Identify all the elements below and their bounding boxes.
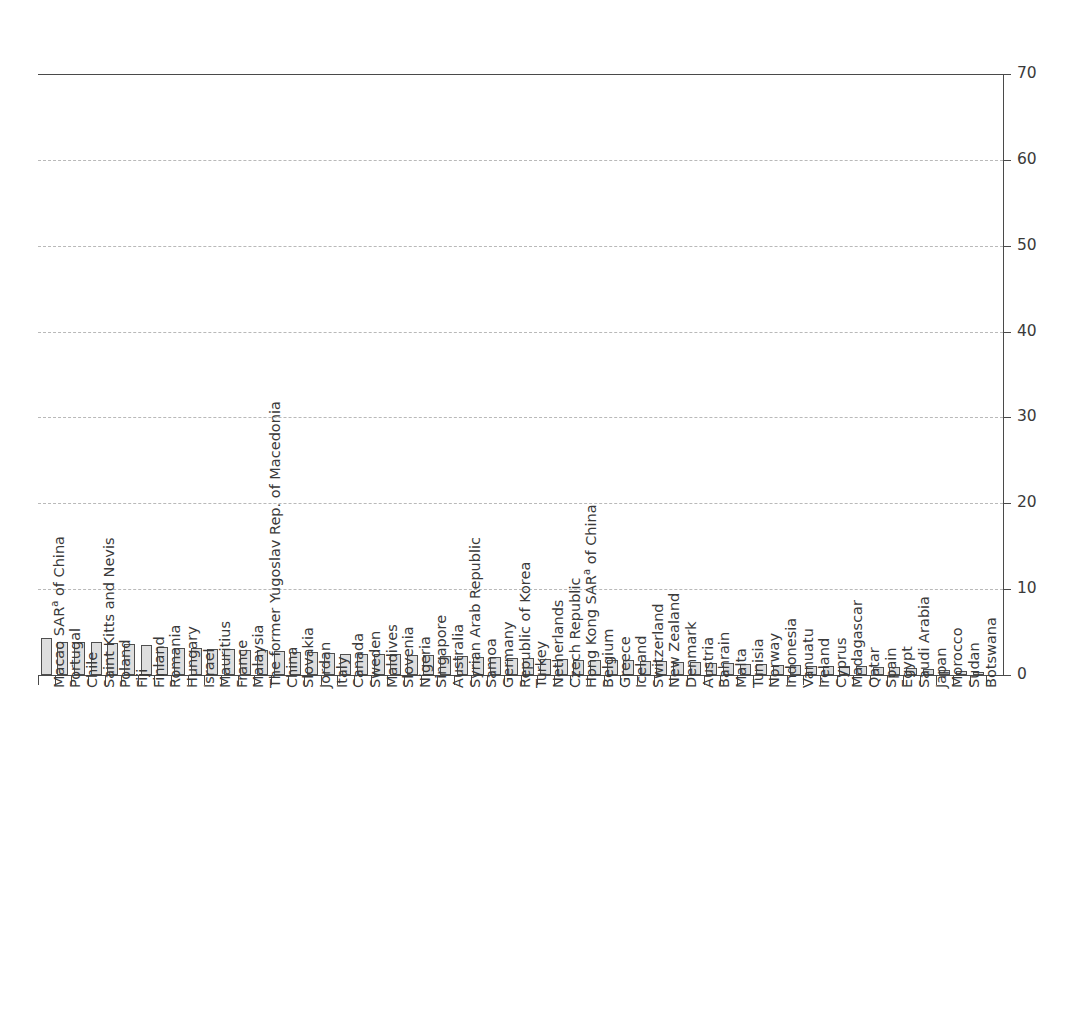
x-axis-label: Finland (152, 636, 167, 688)
x-axis-label: Saint Kitts and Nevis (102, 538, 117, 689)
x-axis-label: Cyprus (834, 637, 849, 688)
x-axis-label: Madagascar (850, 600, 865, 688)
y-tick-label-10: 10 (1017, 581, 1037, 597)
x-axis-label: Denmark (684, 621, 699, 688)
y-tick-30 (1003, 417, 1011, 418)
y-tick-label-20: 20 (1017, 496, 1037, 512)
y-tick-label-50: 50 (1017, 238, 1037, 254)
x-axis-label: Poland (118, 640, 133, 688)
x-axis-label: Switzerland (651, 603, 666, 688)
x-axis-label: Fiji (135, 669, 150, 688)
y-tick-label-70: 70 (1017, 66, 1037, 82)
x-axis-label: France (235, 640, 250, 688)
x-axis-label: Nigeria (418, 636, 433, 688)
x-axis-label: Jordan (318, 642, 333, 688)
x-axis-label: Botswana (984, 617, 999, 688)
x-axis-label: China (285, 647, 300, 688)
x-axis-label: Belgium (601, 629, 616, 688)
x-axis-label: Slovenia (401, 626, 416, 688)
x-axis-label: Austria (701, 637, 716, 688)
x-axis-label: Italy (335, 657, 350, 688)
y-tick-60 (1003, 160, 1011, 161)
x-axis-label: Spain (884, 647, 899, 688)
y-tick-label-60: 60 (1017, 152, 1037, 168)
x-axis-label: Mauritius (218, 621, 233, 688)
x-tick (38, 676, 39, 685)
y-tick-50 (1003, 246, 1011, 247)
y-tick-70 (1003, 74, 1011, 75)
x-axis-label: Greece (618, 636, 633, 688)
y-tick-20 (1003, 503, 1011, 504)
footnote-marker: a (49, 601, 60, 607)
x-axis-label: Vanuatu (801, 628, 816, 688)
x-axis-label: New Zealand (667, 593, 682, 688)
x-axis-label: Romania (168, 625, 183, 688)
x-axis-label: Turkey (534, 641, 549, 688)
x-axis-label: Egypt (900, 646, 915, 688)
x-axis-label: Chile (85, 652, 100, 688)
x-axis-label: Sudan (967, 642, 982, 688)
x-axis-label: Sweden (368, 631, 383, 688)
x-axis-label: Netherlands (551, 600, 566, 688)
y-tick-0 (1003, 675, 1011, 676)
x-axis-label: Norway (767, 633, 782, 688)
x-axis-label: Israel (202, 648, 217, 688)
x-axis-label: Bahrain (717, 632, 732, 688)
y-tick-40 (1003, 332, 1011, 333)
x-axis-label: Singapore (434, 615, 449, 688)
x-axis-label: Samoa (484, 638, 499, 688)
x-axis-label: Iceland (634, 636, 649, 688)
x-axis-label: Malta (734, 648, 749, 688)
x-axis-label: Japan (934, 648, 949, 688)
x-axis-label: Malaysia (251, 625, 266, 688)
bar-chart: 010203040506070 Macao SARa of ChinaPortu… (0, 0, 1090, 1013)
x-axis-label: Portugal (68, 628, 83, 688)
x-axis-label: Australia (451, 624, 466, 688)
x-axis-label: Tunisia (751, 638, 766, 688)
x-axis-label: Saudi Arabia (917, 596, 932, 688)
x-axis-label: Indonesia (784, 618, 799, 688)
x-axis-label: Qatar (867, 647, 882, 688)
x-axis-label: Ireland (817, 638, 832, 688)
y-tick-label-0: 0 (1017, 667, 1027, 683)
x-axis-label: Macao SARa of China (52, 536, 67, 688)
x-axis-label: Hungary (185, 626, 200, 688)
y-tick-10 (1003, 589, 1011, 590)
x-axis-label: Canada (351, 633, 366, 688)
x-axis-label: Republic of Korea (518, 562, 533, 688)
x-axis-label: Hong Kong SARa of China (584, 504, 599, 688)
x-axis-label: Czech Republic (568, 578, 583, 688)
footnote-marker: a (581, 569, 592, 575)
x-axis-label: Syrian Arab Republic (468, 537, 483, 688)
x-axis-label: The former Yugoslav Rep. of Macedonia (268, 401, 283, 688)
y-tick-label-30: 30 (1017, 410, 1037, 426)
y-tick-label-40: 40 (1017, 324, 1037, 340)
x-axis-label: Morocco (950, 627, 965, 688)
x-axis-label: Germany (501, 621, 516, 688)
y-axis-line (1003, 74, 1004, 676)
x-axis-label: Maldives (385, 624, 400, 688)
x-axis-label: Slovakia (301, 627, 316, 688)
